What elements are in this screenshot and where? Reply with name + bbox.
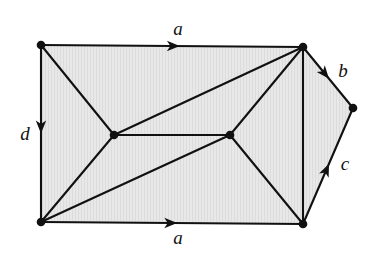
polygon-diagram: aadbc [0,0,377,253]
vertex-top-left [37,41,46,50]
vertex-right [349,104,358,113]
vertex-interior-right [226,131,235,140]
vertex-bottom-right [299,220,308,229]
figure-root: aadbc [0,0,377,253]
vertex-bottom-left [37,218,46,227]
edge-lower-right-label: c [341,153,350,174]
edge-bottom-label: a [173,227,183,248]
edge-top-label: a [173,18,183,39]
edge-upper-right-label: b [338,60,348,81]
vertex-interior-left [110,131,119,140]
vertex-top-right [299,43,308,52]
edge-left-label: d [20,123,30,144]
